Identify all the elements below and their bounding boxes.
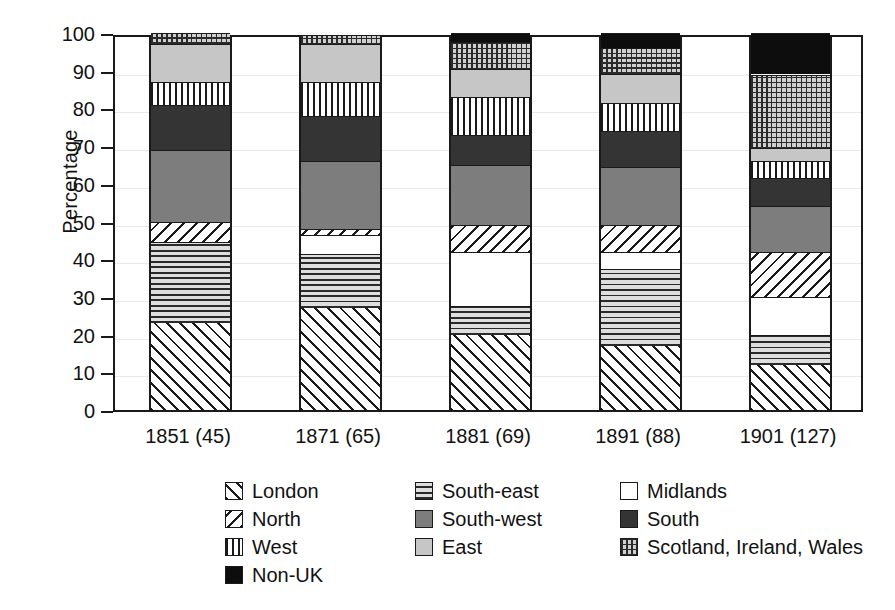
bar-segment[interactable] xyxy=(301,229,380,235)
bar-segment[interactable] xyxy=(451,33,530,42)
y-axis-tick-label: 0 xyxy=(20,401,95,421)
bar-segment[interactable] xyxy=(601,33,680,48)
bar-segment[interactable] xyxy=(151,222,230,243)
y-axis-tick-label: 60 xyxy=(20,175,95,195)
legend-swatch-icon xyxy=(415,510,433,528)
y-axis-tick-label: 20 xyxy=(20,326,95,346)
bar-segment[interactable] xyxy=(301,82,380,116)
bar-1891[interactable] xyxy=(599,37,682,410)
legend-item[interactable]: North xyxy=(225,506,323,532)
bar-segment[interactable] xyxy=(451,69,530,97)
bar-segment[interactable] xyxy=(751,148,830,161)
bar-segment[interactable] xyxy=(601,346,680,410)
bar-segment[interactable] xyxy=(601,225,680,251)
legend-label: London xyxy=(252,481,319,501)
bar-segment[interactable] xyxy=(451,335,530,410)
bar-segment[interactable] xyxy=(451,135,530,165)
bar-segment[interactable] xyxy=(301,161,380,229)
stacked-bar-chart-figure: Percentage 0102030405060708090100 1851 (… xyxy=(0,0,895,610)
bar-segment[interactable] xyxy=(601,74,680,102)
y-axis-tick xyxy=(101,411,113,413)
legend-swatch-icon xyxy=(620,538,638,556)
legend-swatch-icon xyxy=(225,538,243,556)
legend-label: West xyxy=(252,537,297,557)
bar-segment[interactable] xyxy=(151,82,230,105)
legend-item[interactable]: South xyxy=(620,506,863,532)
bar-segment[interactable] xyxy=(151,150,230,222)
x-axis-tick-label: 1871 (65) xyxy=(258,425,418,448)
y-axis-tick-label: 40 xyxy=(20,250,95,270)
bar-segment[interactable] xyxy=(751,161,830,178)
bar-segment[interactable] xyxy=(751,252,830,297)
bar-segment[interactable] xyxy=(601,167,680,225)
bar-segment[interactable] xyxy=(601,269,680,346)
legend-item[interactable]: Scotland, Ireland, Wales xyxy=(620,534,863,560)
legend-item[interactable]: Midlands xyxy=(620,478,863,504)
bar-segment[interactable] xyxy=(151,242,230,323)
bar-segment[interactable] xyxy=(301,116,380,161)
bar-segment[interactable] xyxy=(451,165,530,225)
bar-segment[interactable] xyxy=(601,131,680,167)
bar-segment[interactable] xyxy=(751,206,830,251)
bar-segment[interactable] xyxy=(451,225,530,251)
legend-swatch-icon xyxy=(225,510,243,528)
x-axis-tick-label: 1891 (88) xyxy=(558,425,718,448)
y-axis-tick xyxy=(101,72,113,74)
bar-segment[interactable] xyxy=(451,97,530,135)
bar-segment[interactable] xyxy=(151,105,230,150)
bar-segment[interactable] xyxy=(151,44,230,82)
legend-label: South-east xyxy=(442,481,539,501)
x-axis-tick-label: 1901 (127) xyxy=(708,425,868,448)
bar-1881[interactable] xyxy=(449,37,532,410)
bar-segment[interactable] xyxy=(301,308,380,410)
bar-segment[interactable] xyxy=(451,252,530,307)
bar-segment[interactable] xyxy=(301,254,380,309)
bar-segment[interactable] xyxy=(451,42,530,68)
y-axis-tick-label: 50 xyxy=(20,213,95,233)
x-axis-tick-label: 1851 (45) xyxy=(108,425,268,448)
y-axis-tick xyxy=(101,109,113,111)
y-axis-tick-label: 90 xyxy=(20,62,95,82)
bar-1871[interactable] xyxy=(299,37,382,410)
y-axis-tick xyxy=(101,34,113,36)
legend-label: South-west xyxy=(442,509,542,529)
bar-segment[interactable] xyxy=(601,48,680,74)
bar-segment[interactable] xyxy=(751,75,830,149)
legend-column-1: LondonNorthWestNon-UK xyxy=(225,478,323,590)
bar-segment[interactable] xyxy=(751,335,830,365)
bar-segment[interactable] xyxy=(301,235,380,254)
bar-segment[interactable] xyxy=(751,365,830,410)
legend-item[interactable]: South-west xyxy=(415,506,542,532)
bar-segment[interactable] xyxy=(751,178,830,206)
bar-1901[interactable] xyxy=(749,37,832,410)
bar-segment[interactable] xyxy=(451,306,530,334)
legend-item[interactable]: South-east xyxy=(415,478,542,504)
legend-item[interactable]: West xyxy=(225,534,323,560)
bar-segment[interactable] xyxy=(601,103,680,131)
bar-segment[interactable] xyxy=(301,35,380,44)
bar-segment[interactable] xyxy=(751,297,830,335)
y-axis-tick-label: 30 xyxy=(20,288,95,308)
y-axis-tick xyxy=(101,223,113,225)
legend-swatch-icon xyxy=(620,510,638,528)
bar-segment[interactable] xyxy=(751,33,830,74)
bar-segment[interactable] xyxy=(151,323,230,410)
y-axis-tick-label: 10 xyxy=(20,363,95,383)
bar-segment[interactable] xyxy=(151,33,230,44)
legend-swatch-icon xyxy=(415,482,433,500)
y-axis-tick xyxy=(101,147,113,149)
bar-1851[interactable] xyxy=(149,37,232,410)
legend-item[interactable]: London xyxy=(225,478,323,504)
x-axis-tick-label: 1881 (69) xyxy=(408,425,568,448)
legend-item[interactable]: East xyxy=(415,534,542,560)
bar-segment[interactable] xyxy=(601,252,680,269)
legend-swatch-icon xyxy=(225,482,243,500)
legend-item[interactable]: Non-UK xyxy=(225,562,323,588)
legend-column-3: MidlandsSouthScotland, Ireland, Wales xyxy=(620,478,863,562)
y-axis-tick xyxy=(101,373,113,375)
y-axis-tick xyxy=(101,185,113,187)
plot-area xyxy=(113,35,863,412)
bar-segment[interactable] xyxy=(301,44,380,82)
legend-swatch-icon xyxy=(225,566,243,584)
legend-swatch-icon xyxy=(620,482,638,500)
